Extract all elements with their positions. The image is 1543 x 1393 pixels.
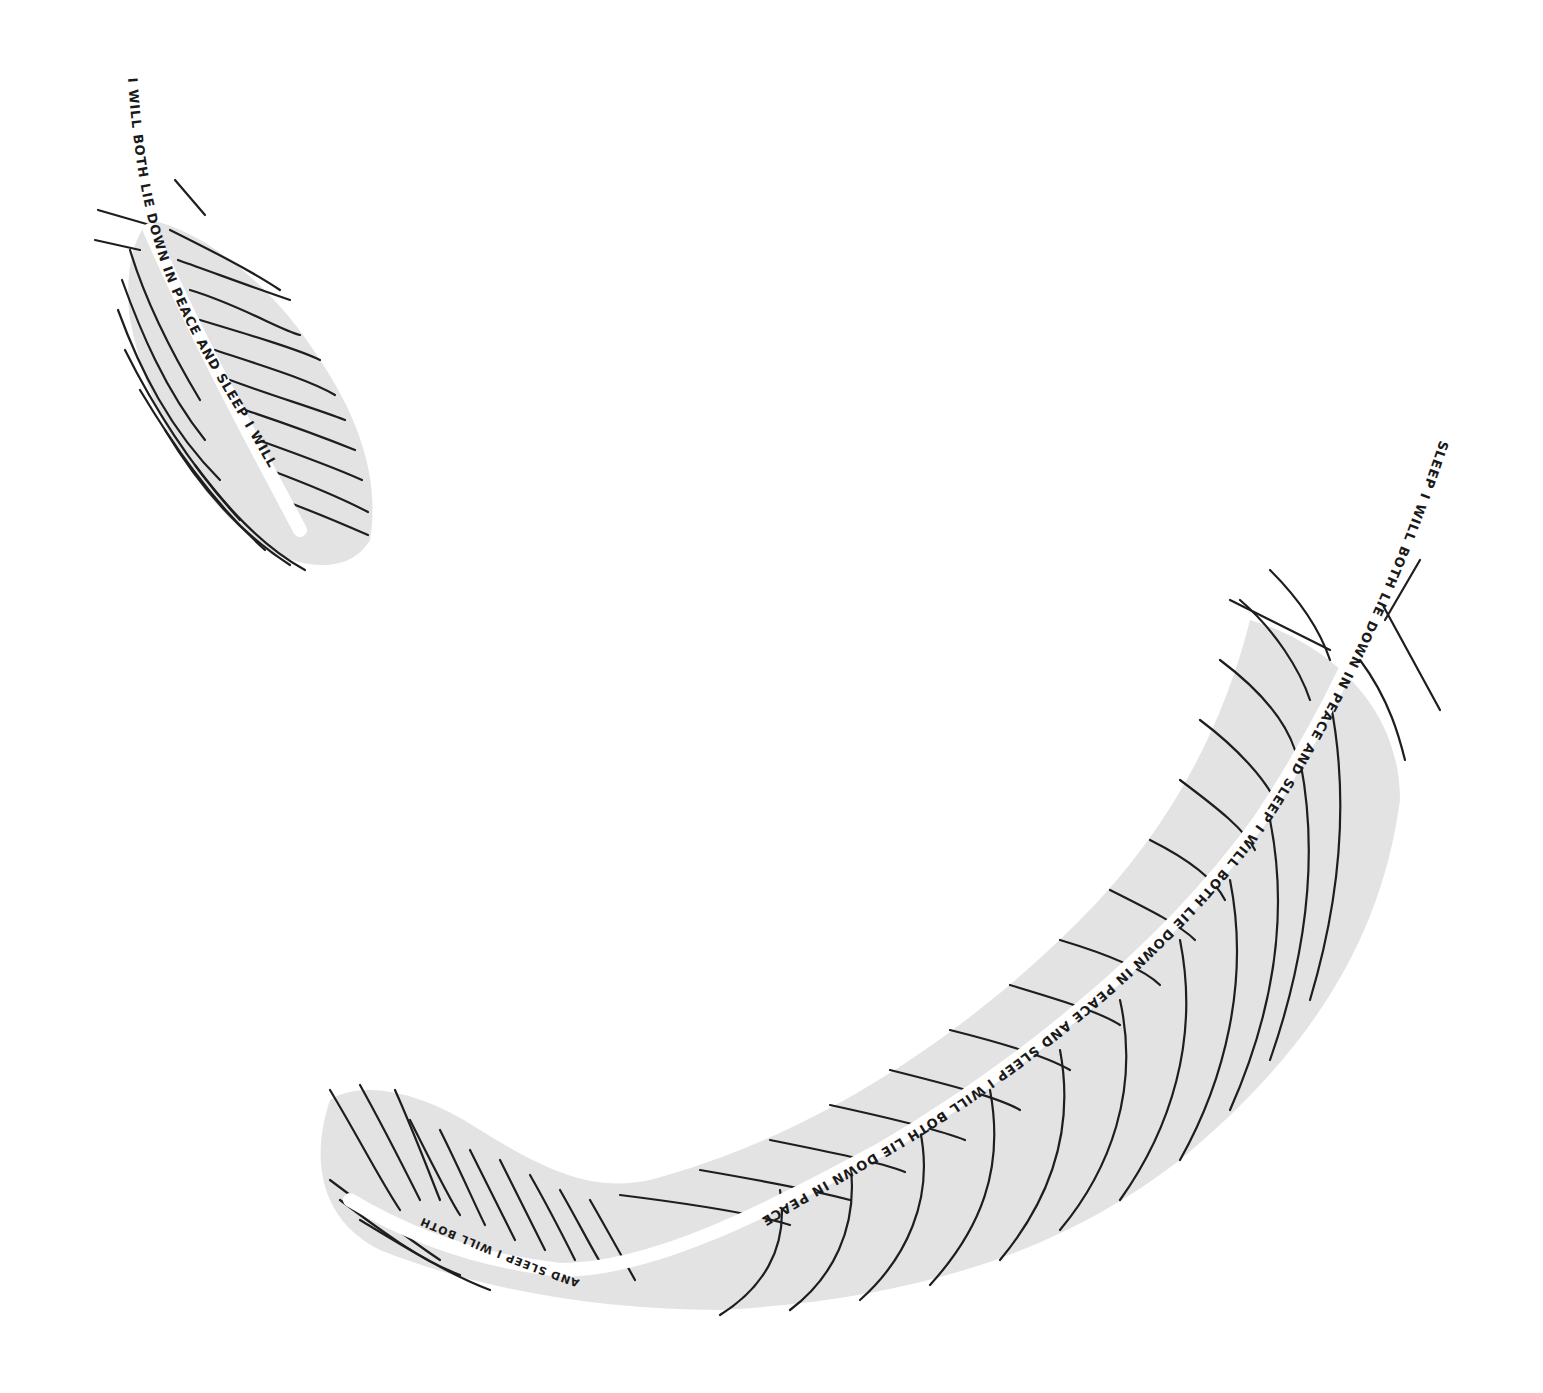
large-feather: SLEEP I WILL BOTH LIE DOWN IN PEACE AND … [321,439,1452,1315]
feathers-drawing: I WILL BOTH LIE DOWN IN PEACE AND SLEEP … [0,0,1543,1393]
small-feather: I WILL BOTH LIE DOWN IN PEACE AND SLEEP … [95,77,373,570]
feather-illustration: I WILL BOTH LIE DOWN IN PEACE AND SLEEP … [0,0,1543,1393]
